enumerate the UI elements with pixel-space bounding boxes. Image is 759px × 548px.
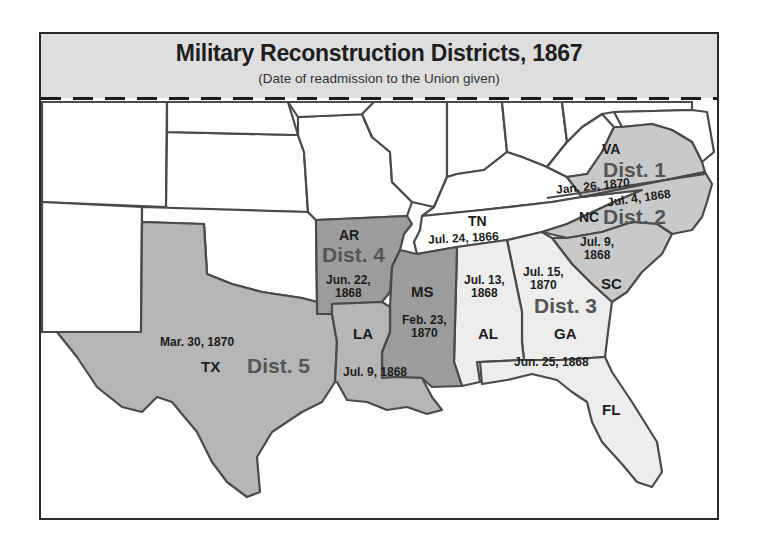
state-florida	[480, 357, 662, 487]
label-fl: FL	[602, 402, 620, 419]
label-ar-date: Jun. 22, 1868	[326, 274, 371, 301]
label-al-date-line2: 1868	[471, 286, 498, 300]
label-ms: MS	[411, 284, 434, 301]
map-header: Military Reconstruction Districts, 1867 …	[41, 34, 717, 98]
label-ms-date: Feb. 23, 1870	[402, 314, 447, 341]
label-nc: NC	[579, 210, 599, 226]
map-subtitle: (Date of readmission to the Union given)	[41, 71, 717, 86]
state-kansas	[166, 132, 308, 212]
label-ga: GA	[554, 326, 577, 343]
label-al-date-line1: Jul. 13,	[464, 273, 505, 287]
state-new-mexico	[42, 202, 142, 332]
label-sc: SC	[601, 276, 622, 293]
label-ar: AR	[339, 228, 359, 244]
label-dist-3: Dist. 3	[534, 294, 597, 318]
label-sc-date: Jul. 9, 1868	[580, 236, 614, 263]
state-iowa	[288, 102, 374, 117]
label-dist-2: Dist. 2	[603, 205, 666, 229]
label-ar-date-line2: 1868	[335, 286, 362, 300]
label-fl-date: Jun. 25, 1868	[514, 356, 589, 369]
label-va: VA	[602, 142, 620, 158]
label-al-date: Jul. 13, 1868	[464, 274, 505, 301]
label-ms-date-line1: Feb. 23,	[402, 313, 447, 327]
label-tx: TX	[201, 359, 220, 376]
label-tx-date: Mar. 30, 1870	[160, 336, 234, 349]
label-la: LA	[353, 326, 373, 343]
map-title: Military Reconstruction Districts, 1867	[41, 40, 717, 67]
label-ga-date: Jul. 15, 1870	[523, 266, 564, 293]
label-al: AL	[478, 326, 498, 343]
map-frame: Military Reconstruction Districts, 1867 …	[39, 32, 719, 520]
label-tn: TN	[468, 214, 487, 230]
label-ar-date-line1: Jun. 22,	[326, 273, 371, 287]
label-ms-date-line2: 1870	[411, 326, 438, 340]
label-ga-date-line1: Jul. 15,	[523, 265, 564, 279]
label-dist-5: Dist. 5	[247, 354, 310, 378]
label-la-date: Jul. 9, 1868	[343, 366, 407, 379]
label-sc-date-line2: 1868	[584, 248, 611, 262]
label-ga-date-line2: 1870	[530, 278, 557, 292]
state-colorado	[42, 102, 167, 207]
label-sc-date-line1: Jul. 9,	[580, 235, 614, 249]
header-dashed-divider	[41, 97, 717, 100]
label-dist-4: Dist. 4	[322, 243, 385, 267]
state-nebraska	[167, 102, 298, 135]
